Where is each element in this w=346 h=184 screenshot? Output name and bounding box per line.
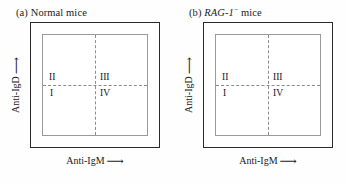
panel-b-caption-prefix: (b) xyxy=(189,7,202,18)
panel-normal-mice: (a) Normal mice Anti-IgD⟶ II III I IV An… xyxy=(0,0,173,184)
panel-a-quadrant-top-left: II xyxy=(49,72,55,82)
x-arrow-icon: ⟶ xyxy=(280,156,297,166)
panel-a-quadrant-bottom-right: IV xyxy=(100,88,110,98)
panel-a-caption-text: Normal mice xyxy=(31,7,87,18)
panel-b-plot-area: II III I IV xyxy=(215,34,321,136)
panel-b-y-axis-label: Anti-IgD xyxy=(183,76,194,113)
panel-b-x-axis-label: Anti-IgM xyxy=(239,155,277,166)
panel-b-x-axis-label-group: Anti-IgM⟶ xyxy=(203,155,333,167)
panel-a-horizontal-divider xyxy=(43,85,147,86)
panel-a-y-axis: Anti-IgD⟶ xyxy=(5,22,27,148)
panel-a-quadrant-top-right: III xyxy=(100,72,110,82)
panel-b-plot-frame: II III I IV xyxy=(203,22,333,148)
panel-a-x-axis-label: Anti-IgM xyxy=(66,155,104,166)
panel-a-caption-prefix: (a) xyxy=(16,7,28,18)
panel-a-caption: (a) Normal mice xyxy=(16,6,87,19)
panel-b-quadrant-bottom-right: IV xyxy=(273,88,283,98)
panel-a-quadrant-bottom-left: I xyxy=(50,88,53,98)
panel-b-horizontal-divider xyxy=(216,85,320,86)
x-arrow-icon: ⟶ xyxy=(107,156,124,166)
panel-b-quadrant-top-left: II xyxy=(222,72,228,82)
panel-a-y-axis-label: Anti-IgD xyxy=(10,76,21,113)
panel-b-caption: (b) RAG-1− mice xyxy=(189,6,262,19)
panel-b-caption-text: mice xyxy=(241,7,262,18)
panel-rag1-mice: (b) RAG-1− mice Anti-IgD⟶ II III I IV An… xyxy=(173,0,346,184)
y-arrow-icon: ⟶ xyxy=(184,57,194,74)
y-arrow-icon: ⟶ xyxy=(11,57,21,74)
panel-a-x-axis-label-group: Anti-IgM⟶ xyxy=(30,155,160,167)
panel-a-plot-area: II III I IV xyxy=(42,34,148,136)
panel-a-y-axis-label-group: Anti-IgD⟶ xyxy=(10,57,22,113)
panel-b-y-axis-label-group: Anti-IgD⟶ xyxy=(183,57,195,113)
panel-b-quadrant-top-right: III xyxy=(273,72,283,82)
panel-b-caption-gene: RAG-1 xyxy=(204,7,234,18)
panel-b-quadrant-bottom-left: I xyxy=(223,88,226,98)
panel-a-plot-frame: II III I IV xyxy=(30,22,160,148)
figure-container: (a) Normal mice Anti-IgD⟶ II III I IV An… xyxy=(0,0,346,184)
panel-b-y-axis: Anti-IgD⟶ xyxy=(178,22,200,148)
